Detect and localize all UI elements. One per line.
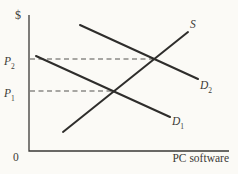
x-axis-label: PC software xyxy=(172,153,229,165)
price-p2-subscript: 2 xyxy=(11,62,15,71)
origin-label: 0 xyxy=(13,152,19,164)
demand2-label-subscript: 2 xyxy=(208,86,212,95)
demand1-label-subscript: 1 xyxy=(180,122,184,131)
price-p1-subscript: 1 xyxy=(11,94,15,103)
supply-curve-label: S xyxy=(190,15,196,31)
demand2-curve-label: D2 xyxy=(200,76,212,95)
supply-label-base: S xyxy=(190,18,196,30)
demand1-curve-label: D1 xyxy=(172,112,184,131)
price-p2-base: P xyxy=(4,55,11,67)
supply-demand-chart: $ P2 P1 S D2 D1 0 PC software xyxy=(0,0,238,174)
price-p1-base: P xyxy=(4,87,11,99)
demand1-curve xyxy=(36,56,170,117)
price-p1-label: P1 xyxy=(4,84,15,103)
price-p2-label: P2 xyxy=(4,52,15,71)
axes xyxy=(29,15,229,151)
y-axis-dollar-label: $ xyxy=(15,9,21,21)
